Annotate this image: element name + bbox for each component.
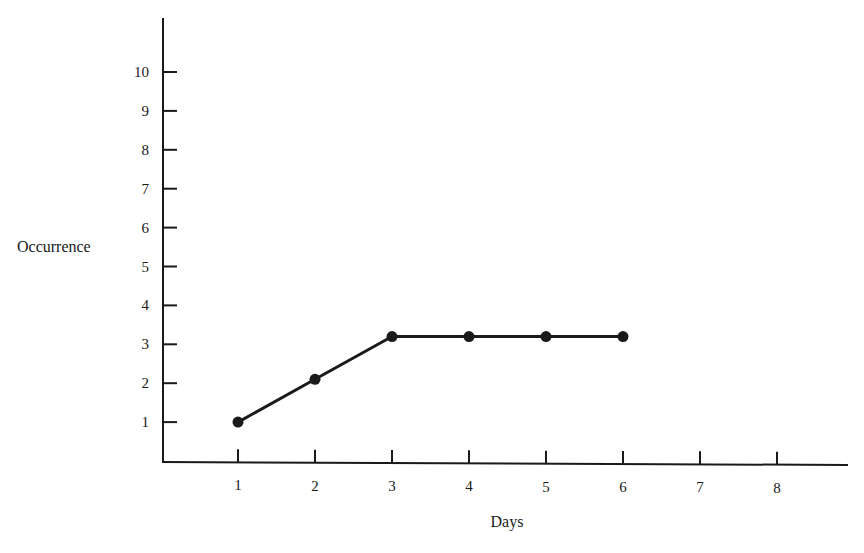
y-tick-label: 1 bbox=[142, 414, 150, 430]
y-tick-label: 3 bbox=[142, 336, 150, 352]
x-axis-title: Days bbox=[491, 513, 524, 531]
data-point-marker bbox=[541, 331, 552, 342]
y-tick-label: 2 bbox=[142, 375, 150, 391]
series-line bbox=[238, 337, 623, 423]
y-tick-label: 6 bbox=[142, 220, 150, 236]
data-point-marker bbox=[464, 331, 475, 342]
x-tick-label: 2 bbox=[311, 478, 319, 494]
y-tick-label: 4 bbox=[142, 297, 150, 313]
y-axis: 12345678910 bbox=[134, 18, 177, 463]
x-tick-label: 3 bbox=[388, 478, 396, 494]
y-tick-label: 9 bbox=[142, 103, 150, 119]
x-tick-label: 5 bbox=[542, 479, 550, 495]
x-axis-line bbox=[162, 462, 848, 465]
y-tick-label: 7 bbox=[142, 181, 150, 197]
x-tick-label: 7 bbox=[696, 479, 704, 495]
data-point-marker bbox=[387, 331, 398, 342]
data-point-marker bbox=[310, 374, 321, 385]
data-point-marker bbox=[618, 331, 629, 342]
x-tick-label: 6 bbox=[619, 479, 627, 495]
x-tick-label: 8 bbox=[773, 480, 781, 496]
y-axis-title: Occurrence bbox=[17, 238, 91, 255]
line-chart: 12345678910 12345678 Occurrence Days bbox=[0, 0, 864, 553]
y-tick-label: 8 bbox=[142, 142, 150, 158]
y-tick-label: 5 bbox=[142, 259, 150, 275]
x-tick-label: 4 bbox=[465, 478, 473, 494]
x-axis: 12345678 bbox=[162, 449, 848, 495]
data-point-marker bbox=[233, 417, 244, 428]
data-series bbox=[233, 331, 629, 428]
y-tick-label: 10 bbox=[134, 64, 149, 80]
x-tick-label: 1 bbox=[234, 477, 242, 493]
